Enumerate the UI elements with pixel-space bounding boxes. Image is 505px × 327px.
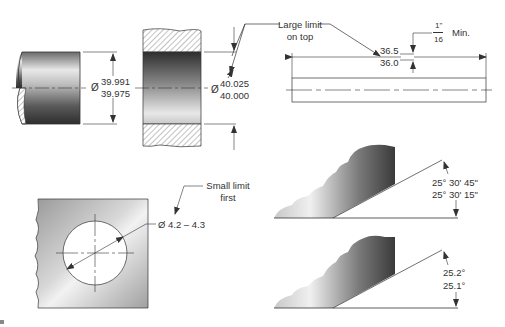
corner-marker [0,320,4,324]
angle-decimal-upper: 25.2° [443,267,465,278]
angle-wedge-dms [274,145,458,218]
shaft-lower-limit: 39.975 [101,88,130,99]
gap-denominator: 16 [434,34,443,45]
callout-small-limit-line2: first [204,192,252,203]
plate-drawing [35,186,203,308]
callout-large-limit-line2: on top [278,31,322,42]
hole-diameter-symbol: Ø [211,84,219,95]
tolerance-diagram [0,0,505,327]
angle-decimal-lower: 25.1° [443,280,465,291]
angle-wedge-decimal [274,236,458,308]
callout-small-limit-line1: Small limit [204,180,252,191]
bar-lower-limit: 36.0 [380,57,399,68]
gap-numerator: 1" [435,20,442,31]
gap-suffix: Min. [452,27,470,38]
shaft-diameter-symbol: Ø [91,82,99,93]
shaft-upper-limit: 39.991 [101,76,130,87]
angle-dms-lower: 25° 30' 15" [432,189,478,200]
hole-lower-limit: 40.000 [220,90,249,101]
plate-hole-dimension: Ø 4.2 – 4.3 [158,219,205,230]
fraction-bar [433,32,443,33]
callout-large-limit-line1: Large limit [278,19,322,30]
hole-upper-limit: 40.025 [220,78,249,89]
bar-upper-limit: 36.5 [380,45,399,56]
angle-dms-upper: 25° 30' 45" [432,177,478,188]
